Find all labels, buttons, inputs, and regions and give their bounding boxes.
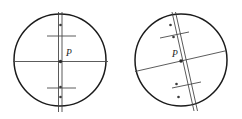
- left-panel: P: [13, 12, 108, 112]
- right-panel: P: [135, 12, 227, 111]
- right-point-p-label: P: [171, 49, 178, 59]
- right-upper-dot-outer: [169, 24, 172, 27]
- left-upper-dot: [59, 24, 62, 27]
- left-point-p-marker: [59, 60, 62, 63]
- right-upper-dot-inner: [172, 36, 175, 39]
- left-lower-dot-outer: [59, 96, 62, 99]
- reticle-diagram-svg: P P: [0, 0, 242, 119]
- right-lower-dot-outer: [177, 96, 180, 99]
- left-point-p-label: P: [65, 48, 72, 58]
- figure-root: P P: [0, 0, 242, 119]
- right-lower-dot-inner: [175, 83, 178, 86]
- right-vertical-reticle-line-a: [172, 12, 194, 111]
- left-lower-dot-inner: [59, 86, 62, 89]
- right-point-p-marker: [179, 59, 182, 62]
